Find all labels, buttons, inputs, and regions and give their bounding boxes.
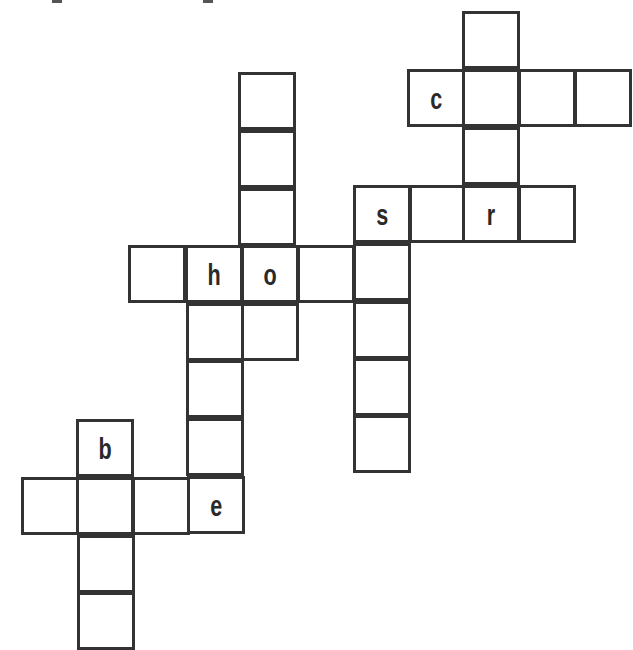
crossword-cell[interactable] [186,418,244,476]
cell-letter: e [210,491,222,531]
crossword-cell[interactable]: b [76,419,134,477]
crossword-cell[interactable] [353,301,411,359]
crossword-cell[interactable]: e [187,476,245,534]
crossword-cell[interactable] [186,360,244,418]
crossword-cell[interactable]: o [241,245,299,303]
cell-letter: s [376,200,388,240]
crossword-cell[interactable] [238,72,296,130]
crossword-cell[interactable] [128,245,186,303]
crossword-cell[interactable] [76,477,134,535]
crossword-cell[interactable] [353,415,411,473]
crossword-cell[interactable] [77,592,135,650]
crossword-cell[interactable] [132,477,190,535]
crossword-cell[interactable]: c [407,69,465,127]
crossword-cell[interactable] [77,535,135,593]
crossword-cell[interactable]: r [462,185,520,243]
crossword-cell[interactable] [518,69,576,127]
text-descender-1 [52,0,62,3]
crossword-cell[interactable] [353,358,411,416]
crossword-cell[interactable] [238,130,296,188]
crossword-cell[interactable] [297,245,355,303]
crossword-cell[interactable] [238,188,296,246]
crossword-cell[interactable]: s [353,185,411,243]
cell-letter: o [263,260,276,300]
cell-letter: h [207,260,220,300]
crossword-cell[interactable] [186,303,244,361]
crossword-cell[interactable] [518,185,576,243]
crossword-cell[interactable] [462,69,520,127]
crossword-cell[interactable]: h [185,245,243,303]
cell-letter: b [98,434,111,474]
crossword-cell[interactable] [21,477,79,535]
crossword-cell[interactable] [353,243,411,301]
crossword-cell[interactable] [462,11,520,69]
crossword-cell[interactable] [574,69,632,127]
cell-letter: r [487,200,495,240]
crossword-cell[interactable] [241,303,299,361]
crossword-cell[interactable] [462,127,520,185]
cell-letter: c [430,84,442,124]
text-descender-2 [203,0,213,3]
crossword-cell[interactable] [409,185,467,243]
